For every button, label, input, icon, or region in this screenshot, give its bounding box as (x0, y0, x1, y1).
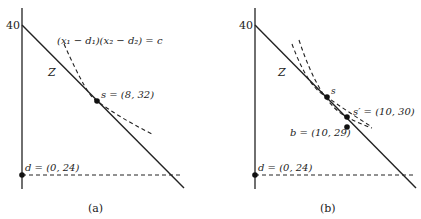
point-s-label: s (331, 86, 336, 96)
y-tick-40: 40 (6, 19, 20, 32)
panel-b: 40 Z s s′ = (10, 30) b = (10, 29) d = (0… (239, 8, 416, 215)
point-d (19, 172, 25, 178)
curve-equation-label: (x₁ − d₁)(x₂ − d₂) = c (57, 35, 163, 46)
point-s-prime (344, 114, 350, 120)
point-d-label: d = (0, 24) (25, 162, 79, 173)
point-s (94, 98, 100, 104)
point-d (252, 172, 258, 178)
line-label-z: Z (47, 66, 56, 79)
point-s (324, 94, 330, 100)
diagram-canvas: 40 Z (x₁ − d₁)(x₂ − d₂) = c s = (8, 32) … (0, 0, 421, 219)
point-d-label: d = (0, 24) (258, 162, 312, 173)
point-s-label: s = (8, 32) (101, 89, 154, 100)
line-label-z: Z (277, 66, 286, 79)
y-tick-40: 40 (239, 19, 253, 32)
caption-a: (a) (88, 202, 103, 215)
point-b-label: b = (10, 29) (290, 127, 351, 138)
caption-b: (b) (320, 202, 336, 215)
panel-a: 40 Z (x₁ − d₁)(x₂ − d₂) = c s = (8, 32) … (6, 8, 184, 215)
point-s-prime-label: s′ = (10, 30) (353, 106, 415, 117)
